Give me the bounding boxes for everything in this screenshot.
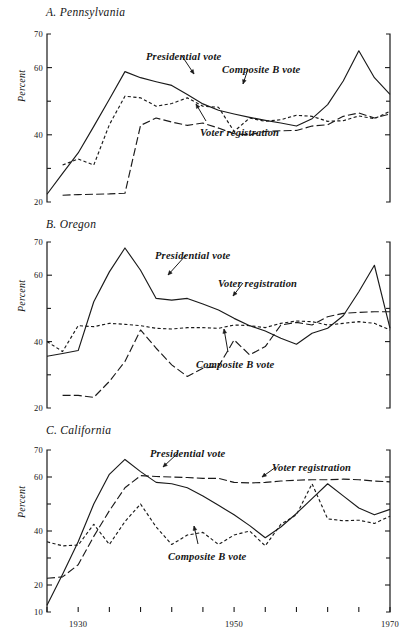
annotation-composite-c: Composite B vote bbox=[168, 551, 246, 562]
annotation-presidential-b: Presidential vote bbox=[155, 250, 230, 261]
series-line-voter-registration bbox=[47, 476, 390, 579]
y-tick-label-b-20: 20 bbox=[21, 403, 43, 413]
annotation-composite-a: Composite B vote bbox=[222, 64, 300, 75]
chart-panel-oregon: B. Oregon Percent 20406070Presidential v… bbox=[0, 216, 419, 422]
y-tick-label-a-20: 20 bbox=[21, 197, 43, 207]
chart-panel-california: C. California Percent 102040607019301950… bbox=[0, 422, 419, 641]
annotation-composite-b: Composite B vote bbox=[196, 359, 274, 370]
series-line-composite-b-vote bbox=[47, 484, 390, 546]
y-tick-label-a-70: 70 bbox=[21, 29, 43, 39]
y-tick-label-b-40: 40 bbox=[21, 337, 43, 347]
y-tick-label-c-70: 70 bbox=[21, 445, 43, 455]
annotation-presidential-c: Presidential vote bbox=[150, 448, 225, 459]
plot-area-b bbox=[0, 216, 419, 422]
x-tick-label-1970: 1970 bbox=[372, 619, 408, 629]
annotation-presidential-a: Presidential vote bbox=[146, 51, 221, 62]
x-tick-label-1950: 1950 bbox=[216, 619, 252, 629]
y-tick-label-c-10: 10 bbox=[21, 607, 43, 617]
y-tick-label-c-60: 60 bbox=[21, 472, 43, 482]
series-line-composite-b-vote bbox=[47, 321, 390, 352]
series-line-voter-registration bbox=[63, 113, 390, 195]
series-line-voter-registration bbox=[63, 312, 390, 398]
y-tick-label-a-60: 60 bbox=[21, 63, 43, 73]
chart-panel-pennsylvania: A. Pennsylvania Percent 20406070Presiden… bbox=[0, 4, 419, 216]
annotation-registration-b: Voter registration bbox=[218, 278, 297, 289]
plot-area-a bbox=[0, 4, 419, 216]
y-tick-label-b-70: 70 bbox=[21, 237, 43, 247]
series-line-presidential-vote bbox=[47, 248, 390, 356]
y-tick-label-c-20: 20 bbox=[21, 580, 43, 590]
series-line-presidential-vote bbox=[47, 459, 390, 605]
y-tick-label-b-60: 60 bbox=[21, 270, 43, 280]
y-tick-label-a-40: 40 bbox=[21, 130, 43, 140]
annotation-registration-c: Voter registration bbox=[272, 462, 351, 473]
x-tick-label-1930: 1930 bbox=[60, 619, 96, 629]
series-line-presidential-vote bbox=[47, 51, 390, 194]
y-tick-label-c-40: 40 bbox=[21, 526, 43, 536]
annotation-registration-a: Voter registration bbox=[200, 127, 279, 138]
